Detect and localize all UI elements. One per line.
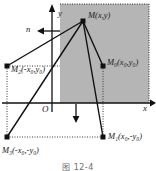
x-axis-label: x	[143, 104, 147, 113]
point-marker-M3	[5, 135, 10, 140]
y-axis-arrowhead	[49, 4, 55, 12]
normal-arrow-head	[37, 28, 44, 35]
x-axis-arrowhead	[150, 100, 156, 107]
point-marker-M1	[101, 135, 106, 140]
normal-vector-label: n	[26, 25, 30, 34]
point-label-M1: M₁(x₀,-y₀)	[108, 132, 142, 141]
point-label-M2: M₂(-x₀,y₀)	[11, 65, 45, 74]
point-label-M: M(x,y)	[88, 11, 110, 20]
flux-arrow-head	[73, 116, 80, 123]
origin-label: O	[42, 105, 49, 114]
y-axis-label: y	[58, 9, 62, 18]
point-marker-M0	[101, 64, 106, 69]
point-label-M0: M₀(x₀,y₀)	[107, 58, 138, 67]
point-marker-M	[81, 19, 86, 24]
figure-container: y x O n M(x,y) M₀(x₀,y₀) M₂(-x₀,y₀) M₁(x…	[0, 0, 156, 171]
point-label-M3: M₃(-x₀,-y₀)	[2, 146, 39, 155]
figure-caption: 图 12-4	[0, 161, 156, 171]
point-marker-M2	[5, 64, 10, 69]
